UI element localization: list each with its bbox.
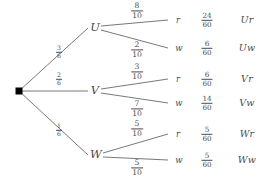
- leaf-V-w: w: [175, 99, 182, 108]
- outcome-probability-Vr: 6 60: [201, 71, 212, 87]
- outcome-probability-Uw: 6 60: [201, 40, 212, 56]
- fraction-denominator: 10: [131, 110, 143, 118]
- outcome-probability-Wr: 5 60: [201, 126, 212, 142]
- branch-probability-root-U: 3 6: [56, 45, 62, 59]
- outcome-name-Vr: Vr: [241, 74, 253, 84]
- branch-U-to-r: [101, 20, 168, 26]
- outcome-probability-Vw: 14 60: [201, 95, 212, 111]
- tree-branches: [0, 0, 269, 183]
- branch-probability-W-r: 5 10: [131, 120, 143, 137]
- branch-probability-root-V: 2 6: [56, 72, 62, 86]
- outcome-name-Uw: Uw: [239, 43, 256, 53]
- outcome-probability-Ww: 5 60: [201, 152, 212, 168]
- node-V: V: [91, 85, 99, 97]
- root-node-dot: [16, 88, 23, 95]
- fraction-numerator: 8: [131, 2, 143, 11]
- fraction-numerator: 7: [131, 100, 143, 109]
- fraction-denominator: 10: [131, 12, 143, 20]
- fraction-denominator: 60: [201, 49, 212, 57]
- fraction-denominator: 6: [56, 131, 62, 138]
- probability-tree-diagram: 3 6 2 6 1 6 U V W 8 10 2 10 3 10 7 10 5 …: [0, 0, 269, 183]
- node-W: W: [90, 149, 102, 161]
- fraction-numerator: 3: [131, 63, 143, 72]
- branch-root-to-U: [19, 28, 88, 91]
- leaf-V-r: r: [176, 75, 180, 84]
- branch-root-to-W: [19, 91, 88, 155]
- fraction-denominator: 60: [201, 80, 212, 88]
- outcome-name-Ww: Ww: [238, 155, 257, 165]
- node-U: U: [90, 22, 100, 34]
- outcome-name-Ur: Ur: [240, 15, 253, 25]
- outcome-name-Vw: Vw: [239, 98, 255, 108]
- leaf-U-w: w: [175, 44, 182, 53]
- leaf-W-r: r: [176, 130, 180, 139]
- branch-probability-root-W: 1 6: [56, 123, 62, 137]
- outcome-name-Wr: Wr: [240, 129, 254, 139]
- fraction-denominator: 60: [201, 21, 212, 29]
- leaf-U-r: r: [176, 16, 180, 25]
- fraction-denominator: 10: [131, 169, 143, 177]
- branch-probability-W-w: 5 10: [131, 159, 143, 176]
- fraction-denominator: 60: [201, 135, 212, 143]
- branch-probability-U-r: 8 10: [131, 2, 143, 19]
- fraction-denominator: 10: [131, 130, 143, 138]
- fraction-denominator: 60: [201, 161, 212, 169]
- branch-probability-U-w: 2 10: [131, 41, 143, 58]
- fraction-denominator: 6: [56, 53, 62, 60]
- outcome-probability-Ur: 24 60: [201, 12, 212, 28]
- fraction-denominator: 60: [201, 104, 212, 112]
- leaf-W-w: w: [175, 156, 182, 165]
- fraction-denominator: 10: [131, 51, 143, 59]
- fraction-numerator: 5: [131, 120, 143, 129]
- fraction-numerator: 2: [131, 41, 143, 50]
- branch-probability-V-w: 7 10: [131, 100, 143, 117]
- fraction-numerator: 5: [131, 159, 143, 168]
- fraction-denominator: 10: [131, 73, 143, 81]
- fraction-denominator: 6: [56, 80, 62, 87]
- branch-probability-V-r: 3 10: [131, 63, 143, 80]
